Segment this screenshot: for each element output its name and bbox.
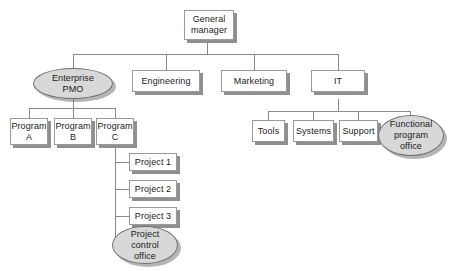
connector-elbow-project-2 [115,189,129,190]
node-systems[interactable]: Systems [293,120,334,142]
connector-drop-enterprise-pmo [73,54,74,68]
connector-gm-stem [207,42,208,54]
node-it[interactable]: IT [311,70,365,92]
connector-elbow-project-3 [115,216,129,217]
connector-drop-engineering [166,54,167,70]
node-project-3[interactable]: Project 3 [129,207,177,225]
connector-drop-support [358,111,359,120]
org-chart-canvas: General manager Enterprise PMO Engineeri… [0,0,455,271]
connector-drop-program-a [29,108,30,118]
connector-drop-tools [268,111,269,120]
node-engineering[interactable]: Engineering [132,70,200,92]
connector-elbow-project-1 [115,162,129,163]
connector-drop-program-b [73,108,74,118]
connector-it-stem [338,99,339,111]
connector-drop-marketing [254,54,255,70]
node-enterprise-pmo[interactable]: Enterprise PMO [33,68,113,99]
connector-programc-spine [115,145,116,244]
node-project-2[interactable]: Project 2 [129,180,177,198]
connector-drop-systems [313,111,314,120]
node-project-control-office[interactable]: Project control office [112,226,178,264]
node-program-a[interactable]: Program A [10,118,48,145]
node-program-c[interactable]: Program C [96,118,134,145]
connector-program-bus [29,108,115,109]
connector-drop-it [338,54,339,70]
node-program-b[interactable]: Program B [54,118,92,145]
node-general-manager[interactable]: General manager [184,10,234,40]
node-marketing[interactable]: Marketing [221,70,287,92]
node-project-1[interactable]: Project 1 [129,153,177,171]
connector-pmo-stem [73,98,74,108]
node-support[interactable]: Support [339,120,378,142]
node-functional-program-office[interactable]: Functional program office [378,115,444,156]
connector-it-bus [268,111,410,112]
node-tools[interactable]: Tools [252,120,285,142]
connector-drop-program-c [115,108,116,118]
connector-top-bus [73,54,338,55]
